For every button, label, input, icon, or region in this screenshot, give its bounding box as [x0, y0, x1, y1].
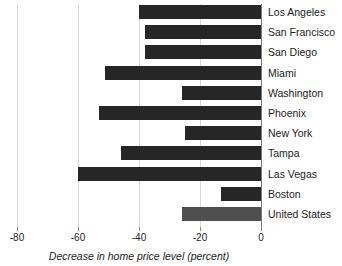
x-tick-label-minus40: -40 — [132, 232, 146, 243]
category-label-new-york: New York — [268, 126, 312, 140]
x-tick-label-minus80: -80 — [10, 232, 24, 243]
bar-san-francisco[interactable] — [145, 25, 261, 39]
x-tick-mark — [17, 227, 18, 231]
x-tick-label-0: 0 — [258, 232, 264, 243]
bar-miami[interactable] — [105, 66, 261, 80]
category-label-san-francisco: San Francisco — [268, 25, 335, 39]
x-tick-label-minus20: -20 — [193, 232, 207, 243]
bar-las-vegas[interactable] — [78, 167, 261, 181]
x-tick-mark — [200, 227, 201, 231]
x-tick-label-minus60: -60 — [71, 232, 85, 243]
bar-tampa[interactable] — [121, 146, 261, 160]
plot-area — [17, 4, 261, 227]
bar-row — [17, 187, 261, 201]
category-label-los-angeles: Los Angeles — [268, 5, 325, 19]
category-label-tampa: Tampa — [268, 146, 300, 160]
bar-los-angeles[interactable] — [139, 5, 261, 19]
bar-row — [17, 66, 261, 80]
x-tick-mark — [78, 227, 79, 231]
bar-row — [17, 167, 261, 181]
bar-row — [17, 45, 261, 59]
category-label-united-states: United States — [268, 207, 331, 221]
bar-united-states[interactable] — [182, 207, 261, 221]
x-axis: -80-60-40-200 — [17, 227, 261, 233]
bar-row — [17, 86, 261, 100]
category-label-boston: Boston — [268, 187, 301, 201]
x-tick-mark — [139, 227, 140, 231]
bar-row — [17, 25, 261, 39]
category-label-miami: Miami — [268, 66, 296, 80]
bar-new-york[interactable] — [185, 126, 261, 140]
bar-row — [17, 106, 261, 120]
category-label-san-diego: San Diego — [268, 45, 317, 59]
bar-phoenix[interactable] — [99, 106, 261, 120]
bar-washington[interactable] — [182, 86, 261, 100]
zero-axis-line — [261, 4, 262, 227]
bar-row — [17, 207, 261, 221]
category-label-phoenix: Phoenix — [268, 106, 306, 120]
x-tick-mark — [261, 227, 262, 231]
bar-boston[interactable] — [221, 187, 261, 201]
bar-row — [17, 146, 261, 160]
bar-row — [17, 126, 261, 140]
bar-chart: Los AngelesSan FranciscoSan DiegoMiamiWa… — [0, 0, 342, 266]
bar-row — [17, 5, 261, 19]
category-label-washington: Washington — [268, 86, 323, 100]
bar-san-diego[interactable] — [145, 45, 261, 59]
category-label-list: Los AngelesSan FranciscoSan DiegoMiamiWa… — [268, 4, 342, 227]
x-axis-title: Decrease in home price level (percent) — [17, 250, 261, 262]
category-label-las-vegas: Las Vegas — [268, 167, 317, 181]
